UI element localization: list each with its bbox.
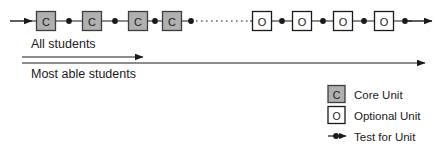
- student-flow-group: All studentsMost able students: [22, 37, 425, 81]
- legend-item-optional-unit: OOptional Unit: [328, 107, 421, 124]
- test-marker-test-8: [402, 18, 408, 24]
- unit-glyph-core-4: C: [168, 16, 176, 28]
- unit-node-optional-3: O: [334, 12, 353, 31]
- test-marker-test-1: [66, 18, 72, 24]
- flow-label-all-students: All students: [31, 37, 96, 51]
- flow-most-able-students: Most able students: [22, 63, 425, 81]
- unit-node-core-4: C: [163, 12, 182, 31]
- test-marker-test-5: [279, 18, 285, 24]
- diagram-canvas: CCCCOOOO All studentsMost able students …: [0, 0, 442, 152]
- test-marker-test-4: [188, 18, 194, 24]
- unit-glyph-optional-1: O: [258, 16, 267, 28]
- test-marker-test-2: [112, 18, 118, 24]
- legend-item-core-unit: CCore Unit: [328, 86, 403, 103]
- unit-node-core-1: C: [37, 12, 56, 31]
- unit-node-optional-2: O: [293, 12, 312, 31]
- diagram-legend: CCore UnitOOptional UnitTest for Unit: [328, 86, 421, 143]
- unit-sequence-diagram: CCCCOOOO All studentsMost able students …: [0, 0, 442, 152]
- unit-glyph-optional-2: O: [298, 16, 307, 28]
- test-marker-test-6: [320, 18, 326, 24]
- test-marker-test-7: [361, 18, 367, 24]
- unit-glyph-core-1: C: [42, 16, 50, 28]
- legend-glyph-optional-unit: O: [332, 110, 340, 122]
- unit-node-optional-1: O: [253, 12, 272, 31]
- unit-node-core-3: C: [129, 12, 148, 31]
- legend-swatch-test-dot: [333, 133, 339, 139]
- test-marker-test-3: [152, 18, 158, 24]
- unit-glyph-core-2: C: [88, 16, 96, 28]
- legend-item-test-for-unit: Test for Unit: [328, 131, 416, 143]
- unit-node-core-2: C: [83, 12, 102, 31]
- unit-glyph-core-3: C: [134, 16, 142, 28]
- flow-all-students: All students: [22, 37, 143, 57]
- legend-label-optional-unit: Optional Unit: [354, 110, 421, 122]
- unit-glyph-optional-3: O: [339, 16, 348, 28]
- unit-glyph-optional-4: O: [380, 16, 389, 28]
- unit-node-optional-4: O: [375, 12, 394, 31]
- legend-label-test-for-unit: Test for Unit: [354, 131, 416, 143]
- legend-glyph-core-unit: C: [333, 89, 341, 101]
- legend-label-core-unit: Core Unit: [354, 89, 403, 101]
- flow-label-most-able-students: Most able students: [31, 67, 136, 81]
